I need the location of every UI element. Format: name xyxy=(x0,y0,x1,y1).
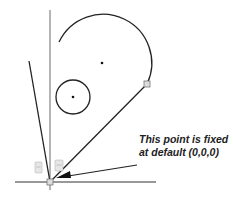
annotation-line-1: This point is fixed xyxy=(139,133,228,146)
sketch-line-right[interactable] xyxy=(50,84,147,182)
sketch-canvas xyxy=(0,0,233,199)
arc-endpoint[interactable] xyxy=(144,81,150,87)
sketch-arc[interactable] xyxy=(59,14,152,84)
annotation-label: This point is fixed at default (0,0,0) xyxy=(139,133,228,159)
constraint-icon-right[interactable] xyxy=(55,160,63,171)
constraint-icon-left[interactable] xyxy=(35,162,42,173)
callout-arrow-line xyxy=(62,165,137,177)
annotation-line-2: at default (0,0,0) xyxy=(139,146,228,159)
origin-fixed-point[interactable] xyxy=(47,179,53,185)
circle-center-point[interactable] xyxy=(72,96,75,99)
arc-center-point[interactable] xyxy=(101,62,104,65)
